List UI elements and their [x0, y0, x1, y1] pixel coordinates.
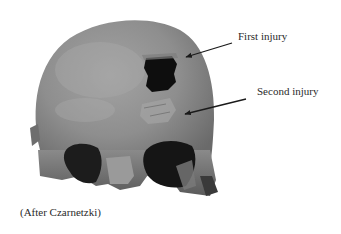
skull-figure: First injury Second injury (After Czarne… [0, 0, 341, 234]
second-injury-label: Second injury [257, 85, 318, 97]
skull-image [0, 0, 341, 234]
nasal-bridge [106, 156, 134, 184]
first-injury-label: First injury [238, 30, 287, 42]
figure-credit: (After Czarnetzki) [20, 206, 101, 218]
